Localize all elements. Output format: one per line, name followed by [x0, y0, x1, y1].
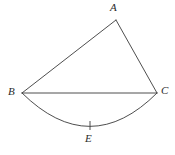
vertex-label-a: A — [110, 2, 117, 13]
vertex-label-c: C — [161, 85, 168, 96]
side-AB-line — [22, 20, 116, 93]
vertex-label-e: E — [85, 133, 92, 144]
arc-BEC-curve — [22, 93, 157, 127]
side-AC-line — [116, 20, 157, 93]
geometry-figure: A B C E — [0, 0, 175, 155]
vertex-label-b: B — [8, 86, 15, 97]
